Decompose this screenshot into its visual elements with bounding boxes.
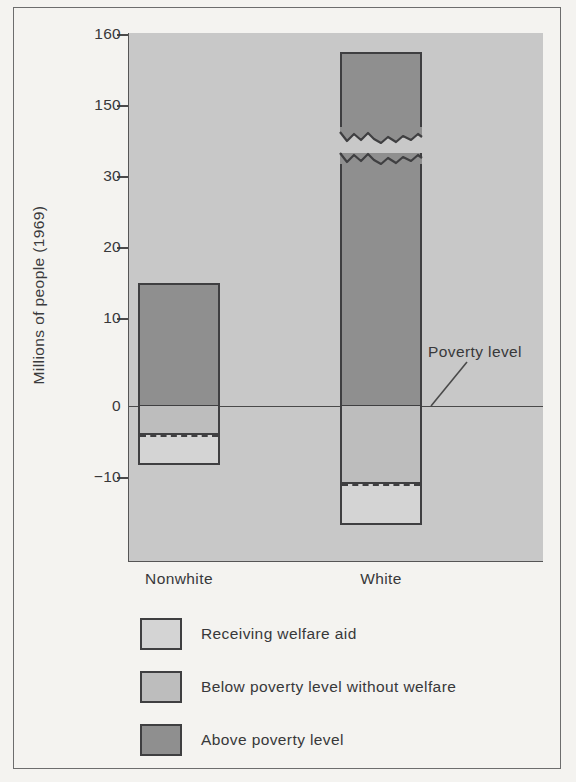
x-category-label-nonwhite: Nonwhite: [145, 570, 213, 588]
legend-label: Above poverty level: [201, 731, 344, 749]
welfare-divider-dashed: [342, 484, 420, 486]
legend-label: Receiving welfare aid: [201, 625, 357, 643]
legend-label: Below poverty level without welfare: [201, 678, 456, 696]
y-axis-title: Millions of people (1969): [30, 206, 48, 385]
y-tick-label: 0: [112, 397, 121, 415]
legend-swatch-icon: [140, 671, 182, 703]
bar-segment-receiving-welfare[interactable]: [138, 435, 220, 465]
y-tick-label: 150: [94, 96, 121, 114]
bar-segment-above-poverty[interactable]: [138, 283, 220, 407]
chart-figure: Millions of people (1969) 160 150 30 20 …: [0, 0, 576, 782]
legend-item-receiving-welfare[interactable]: Receiving welfare aid: [140, 618, 456, 650]
y-tick-label: −10: [94, 468, 121, 486]
plot-area: 160 150 30 20 10 0 −10: [128, 33, 543, 562]
bar-segment-above-poverty-lower[interactable]: [340, 153, 422, 407]
poverty-level-leader-line: [423, 360, 483, 410]
axis-break-upper-icon: [340, 127, 422, 145]
welfare-divider-dashed: [140, 435, 218, 437]
y-tick-label: 10: [103, 309, 121, 327]
y-tick-label: 30: [103, 167, 121, 185]
legend-item-below-poverty[interactable]: Below poverty level without welfare: [140, 671, 456, 703]
bar-group-nonwhite[interactable]: [138, 33, 220, 562]
y-tick-label: 20: [103, 238, 121, 256]
chart-legend: Receiving welfare aid Below poverty leve…: [140, 618, 456, 756]
bar-segment-above-poverty-upper[interactable]: [340, 52, 422, 134]
bar-segment-below-poverty[interactable]: [340, 406, 422, 484]
bar-group-white[interactable]: [340, 33, 422, 562]
bar-segment-receiving-welfare[interactable]: [340, 484, 422, 525]
bar-segment-below-poverty[interactable]: [138, 406, 220, 435]
legend-swatch-icon: [140, 618, 182, 650]
legend-swatch-icon: [140, 724, 182, 756]
poverty-level-annotation: Poverty level: [428, 343, 522, 361]
y-tick-label: 160: [94, 25, 121, 43]
axis-break-lower-icon: [340, 146, 422, 164]
legend-item-above-poverty[interactable]: Above poverty level: [140, 724, 456, 756]
x-category-label-white: White: [360, 570, 402, 588]
